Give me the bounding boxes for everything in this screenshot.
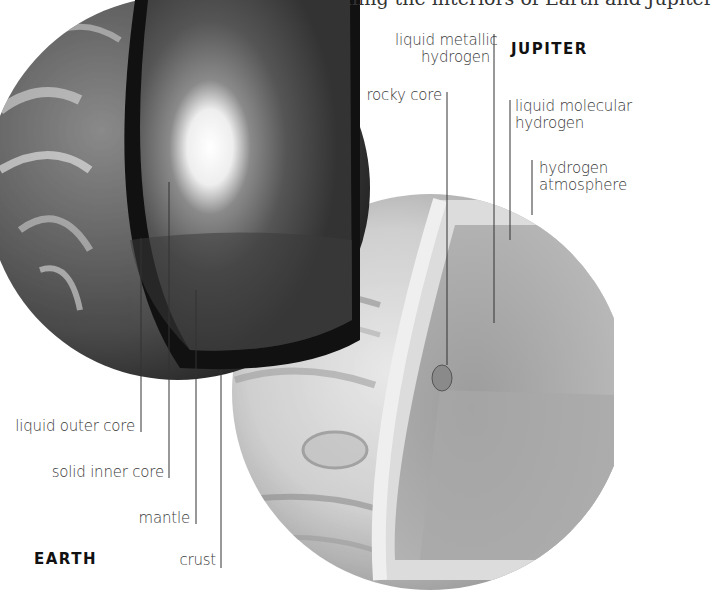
label-line: atmosphere (539, 177, 627, 194)
caption-fragment: ishing the interiors of Earth and Jupite… (330, 0, 713, 9)
label-liquid-metallic-hydrogen: liquid metallic hydrogen (395, 32, 490, 66)
label-liquid-outer-core: liquid outer core (0, 418, 135, 435)
rocky-core-shape (432, 365, 452, 391)
earth-title: EARTH (34, 550, 97, 568)
label-line: liquid metallic (395, 32, 490, 49)
label-liquid-molecular-hydrogen: liquid molecular hydrogen (515, 98, 632, 132)
label-mantle: mantle (100, 510, 190, 527)
label-line: hydrogen (539, 160, 627, 177)
label-line: hydrogen (395, 49, 490, 66)
label-rocky-core: rocky core (360, 87, 442, 104)
earth-sphere (0, 0, 370, 380)
label-line: hydrogen (515, 115, 632, 132)
label-line: liquid molecular (515, 98, 632, 115)
label-crust: crust (140, 552, 216, 569)
label-hydrogen-atmosphere: hydrogen atmosphere (539, 160, 627, 194)
label-solid-inner-core: solid inner core (30, 464, 164, 481)
jupiter-title: JUPITER (511, 40, 588, 58)
